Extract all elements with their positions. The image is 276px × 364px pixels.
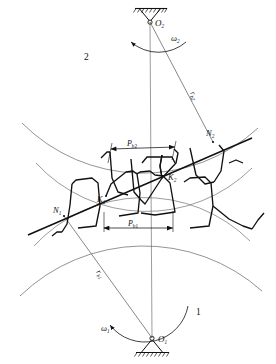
label-omega2: ω2	[171, 33, 180, 44]
omega1-arrow	[110, 306, 188, 342]
label-n1: N1	[52, 205, 62, 216]
gear2-tooth-far-right	[229, 160, 243, 163]
gear2-tooth-top-land	[142, 157, 175, 163]
contact-point-k1-marker	[105, 195, 107, 197]
centre-line	[150, 22, 152, 338]
label-n2: N2	[205, 128, 215, 139]
base-radius-line-gear1	[64, 216, 152, 338]
svg-text:rb2: rb2	[187, 90, 200, 102]
gear1-tooth-left-tip	[52, 232, 62, 236]
tip-arc-gear1	[34, 198, 250, 246]
svg-text:rb1: rb1	[94, 268, 107, 281]
label-k1: K1	[96, 194, 106, 205]
label-pb2: Pb2	[126, 139, 137, 149]
label-omega1: ω1	[101, 323, 110, 334]
label-k2: K2	[167, 172, 177, 183]
base-circle-gear1	[20, 246, 262, 296]
tip-arc-gear2	[36, 163, 252, 211]
gear2-tooth-left-tip	[101, 152, 110, 158]
gear1-tooth-right	[184, 177, 213, 228]
label-rb1: rb1	[94, 268, 107, 281]
gear-meshing-diagram: O2 ω2 2 rb2 N2 Pb2 K2 K1 N1 Pb1 rb1 1 ω1…	[0, 0, 276, 364]
gear2-tooth-right	[190, 148, 214, 184]
label-gear1-number: 1	[196, 307, 201, 317]
label-rb2: rb2	[187, 90, 200, 102]
label-gear2-number: 2	[84, 52, 89, 62]
tangent-point-n2-marker	[212, 141, 214, 143]
base-radius-line-gear2	[150, 22, 213, 142]
label-o2: O2	[155, 18, 165, 29]
contact-point-k2-marker	[162, 175, 164, 177]
label-o1: O1	[158, 334, 168, 345]
gear2-tooth-left	[110, 152, 128, 195]
tangent-point-n1-marker	[63, 215, 65, 217]
diagram-canvas: O2 ω2 2 rb2 N2 Pb2 K2 K1 N1 Pb1 rb1 1 ω1…	[0, 0, 276, 364]
dimension-base-pitch-upper	[108, 141, 176, 163]
gear1-tooth-far-right	[252, 213, 264, 229]
label-pb1: Pb1	[127, 219, 138, 229]
gear1-tooth-centre-top	[137, 171, 150, 174]
